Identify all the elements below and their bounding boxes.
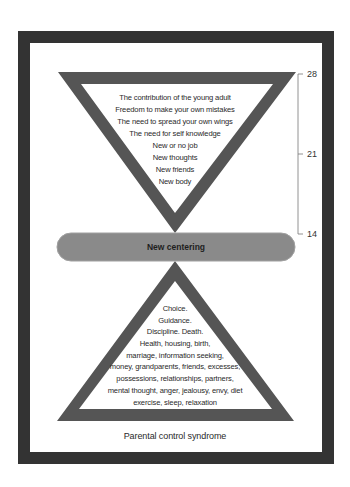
center-band-label: New centering: [57, 233, 295, 261]
bottom-line: money, grandparents, friends, excesses,: [0, 361, 350, 373]
bottom-line: marriage, information seeking,: [0, 350, 350, 362]
top-line: Freedom to make your own mistakes: [0, 104, 350, 116]
age-tick-14: 14: [307, 229, 317, 239]
bottom-triangle-text: Choice. Guidance. Discipline. Death. Hea…: [0, 303, 350, 408]
top-line: New or no job: [0, 140, 350, 152]
age-tick-21: 21: [307, 149, 317, 159]
age-tick-28: 28: [307, 69, 317, 79]
top-line: The need for self knowledge: [0, 128, 350, 140]
top-line: New thoughts: [0, 152, 350, 164]
bottom-line: possessions, relationships, partners,: [0, 373, 350, 385]
bottom-line: Health, housing, birth,: [0, 338, 350, 350]
top-line: The need to spread your own wings: [0, 116, 350, 128]
top-line: The contribution of the young adult: [0, 92, 350, 104]
bottom-line: mental thought, anger, jealousy, envy, d…: [0, 385, 350, 397]
bottom-line: Discipline. Death.: [0, 326, 350, 338]
bottom-line: Guidance.: [0, 315, 350, 327]
bottom-line: exercise, sleep, relaxation: [0, 397, 350, 409]
top-line: New body: [0, 176, 350, 188]
bottom-line: Choice.: [0, 303, 350, 315]
diagram-caption: Parental control syndrome: [0, 431, 350, 441]
top-triangle-text: The contribution of the young adult Free…: [0, 92, 350, 188]
top-line: New friends: [0, 164, 350, 176]
